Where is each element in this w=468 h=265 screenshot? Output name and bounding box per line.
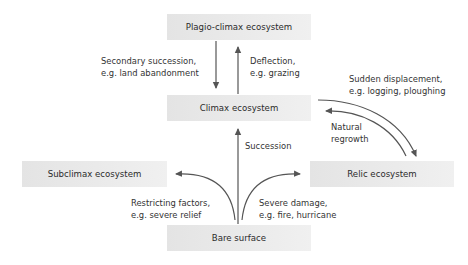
node-subclimax-ecosystem: Subclimax ecosystem (22, 161, 167, 187)
label-sudden-displacement: Sudden displacement, e.g. logging, ploug… (349, 74, 445, 97)
label-line: Succession (245, 141, 291, 153)
label-line: Deflection, (250, 56, 300, 68)
label-succession: Succession (245, 141, 291, 153)
node-relic-ecosystem: Relic ecosystem (310, 161, 454, 187)
label-severe-damage: Severe damage, e.g. fire, hurricane (259, 198, 336, 221)
label-line: Severe damage, (259, 198, 336, 210)
label-line: e.g. severe relief (131, 210, 210, 222)
label-natural-regrowth: Natural regrowth (331, 122, 369, 145)
node-climax-ecosystem: Climax ecosystem (167, 95, 311, 121)
label-line: e.g. logging, ploughing (349, 86, 445, 98)
label-deflection: Deflection, e.g. grazing (250, 56, 300, 79)
label-line: Sudden displacement, (349, 74, 445, 86)
label-restricting-factors: Restricting factors, e.g. severe relief (131, 198, 210, 221)
label-line: e.g. grazing (250, 68, 300, 80)
label-line: e.g. fire, hurricane (259, 210, 336, 222)
node-bare-surface: Bare surface (167, 225, 311, 251)
node-plagio-climax-ecosystem: Plagio-climax ecosystem (167, 14, 311, 40)
label-line: Secondary succession, (101, 56, 199, 68)
label-line: regrowth (331, 134, 369, 146)
label-line: Restricting factors, (131, 198, 210, 210)
label-line: Natural (331, 122, 369, 134)
label-line: e.g. land abandonment (101, 68, 199, 80)
label-secondary-succession: Secondary succession, e.g. land abandonm… (101, 56, 199, 79)
